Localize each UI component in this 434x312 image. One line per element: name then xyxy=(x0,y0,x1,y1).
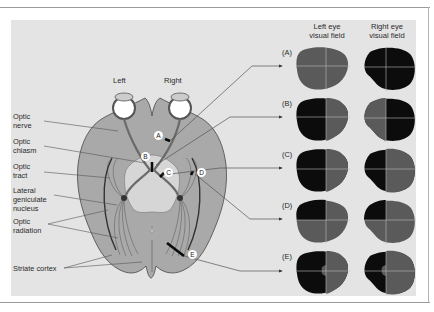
field-A-right xyxy=(364,47,416,91)
field-E-left xyxy=(296,251,350,294)
label-striate-cortex: Striate cortex xyxy=(13,264,57,273)
lesion-marker-b: B xyxy=(141,152,150,161)
label-optic-tract: Optic tract xyxy=(13,162,30,180)
field-C-right xyxy=(364,149,416,193)
visual-fields xyxy=(296,47,416,295)
label-lateral-geniculate-nucleus: Lateral geniculate nucleus xyxy=(13,186,47,213)
label-optic-radiation: Optic radiation xyxy=(13,217,41,235)
row-label-d: (D) xyxy=(282,201,292,210)
label-optic-nerve: Optic nerve xyxy=(13,112,32,130)
label-left-side: Left xyxy=(113,76,126,85)
field-A-left xyxy=(296,47,350,90)
field-E-right xyxy=(364,251,416,295)
label-right-side: Right xyxy=(164,76,182,85)
row-label-a: (A) xyxy=(282,48,292,57)
brain-outline xyxy=(77,98,226,278)
lgn-left xyxy=(121,195,127,201)
label-optic-chiasm: Optic chiasm xyxy=(13,137,36,155)
row-label-c: (C) xyxy=(282,150,292,159)
header-left-eye-visual-field: Left eye visual field xyxy=(297,22,357,40)
field-D-right xyxy=(364,200,416,244)
row-label-e: (E) xyxy=(282,252,292,261)
lesion-marker-d: D xyxy=(197,168,206,177)
row-label-b: (B) xyxy=(282,99,292,108)
lgn-right xyxy=(177,195,183,201)
field-B-right xyxy=(364,98,416,142)
field-D-left xyxy=(296,200,350,243)
field-B-left xyxy=(296,98,350,141)
lesion-marker-a: A xyxy=(154,131,163,140)
brain-diagram xyxy=(0,0,434,312)
field-C-left xyxy=(296,149,350,192)
header-right-eye-visual-field: Right eye visual field xyxy=(357,22,417,40)
lesion-marker-e: E xyxy=(188,250,197,259)
lesion-marker-c: C xyxy=(164,168,173,177)
